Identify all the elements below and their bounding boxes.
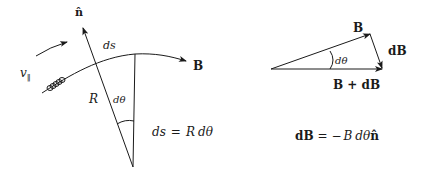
normal-vector-label: n̂ — [75, 6, 83, 19]
left-figure: n̂ ds B R dθ v‖ ds=Rdθ — [20, 6, 214, 167]
arc-length-equation: ds=Rdθ — [152, 125, 214, 139]
right-figure: B dB dθ B + dB dB= −Bdθn̂ — [271, 21, 407, 143]
parallel-velocity-arrow — [36, 42, 67, 56]
field-change-label: dB — [388, 44, 407, 58]
arc-length-label: ds — [103, 39, 116, 52]
parallel-velocity-label: v‖ — [20, 66, 31, 82]
field-change-vector — [370, 34, 382, 68]
radius-label: R — [88, 92, 98, 106]
radius-line — [133, 54, 135, 167]
field-line-curve — [42, 54, 186, 93]
angle-label-left: dθ — [113, 94, 125, 105]
field-vector — [271, 34, 370, 69]
field-line-curvature-diagram: n̂ ds B R dθ v‖ ds=Rdθ B dB dθ B + dB dB… — [0, 0, 424, 177]
angle-arc-right — [330, 51, 333, 69]
sum-label: B + dB — [333, 78, 380, 92]
angle-label-right: dθ — [335, 55, 347, 66]
field-label-right: B — [353, 21, 363, 35]
field-label-left: B — [193, 59, 203, 73]
angle-arc — [117, 120, 134, 124]
field-change-equation: dB= −Bdθn̂ — [295, 129, 379, 143]
